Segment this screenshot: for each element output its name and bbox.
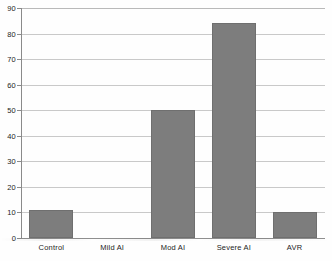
y-tick-mark-60 [17, 85, 21, 86]
y-tick-label-50: 50 [7, 106, 16, 115]
y-tick-label-80: 80 [7, 29, 16, 38]
y-tick-mark-40 [17, 136, 21, 137]
y-tick-label-20: 20 [7, 182, 16, 191]
gridline-0 [21, 238, 325, 239]
bar-series [21, 8, 325, 238]
y-tick-mark-70 [17, 59, 21, 60]
bar-chart: 0102030405060708090 ControlMild AIMod AI… [0, 0, 332, 261]
bar-severe-ai [212, 23, 256, 238]
y-tick-mark-90 [17, 8, 21, 9]
y-tick-label-70: 70 [7, 55, 16, 64]
bar-control [29, 210, 73, 238]
x-tick-label-severe-ai: Severe AI [217, 243, 251, 252]
x-tick-label-mild-ai: Mild AI [100, 243, 124, 252]
x-tick-label-control: Control [39, 243, 65, 252]
y-tick-mark-50 [17, 110, 21, 111]
y-tick-label-30: 30 [7, 157, 16, 166]
x-tick-label-avr: AVR [287, 243, 302, 252]
plot-area [21, 8, 325, 238]
bar-avr [273, 212, 317, 238]
y-tick-mark-80 [17, 34, 21, 35]
y-tick-mark-10 [17, 212, 21, 213]
y-tick-label-90: 90 [7, 4, 16, 13]
y-tick-label-60: 60 [7, 80, 16, 89]
y-tick-label-40: 40 [7, 131, 16, 140]
y-tick-mark-30 [17, 161, 21, 162]
y-tick-label-0: 0 [12, 234, 16, 243]
y-tick-label-10: 10 [7, 208, 16, 217]
y-axis-line [21, 8, 22, 239]
y-tick-mark-0 [17, 238, 21, 239]
x-tick-label-mod-ai: Mod AI [161, 243, 186, 252]
y-tick-mark-20 [17, 187, 21, 188]
bar-mod-ai [151, 110, 195, 238]
x-axis-labels: ControlMild AIMod AISevere AIAVR [21, 243, 325, 259]
